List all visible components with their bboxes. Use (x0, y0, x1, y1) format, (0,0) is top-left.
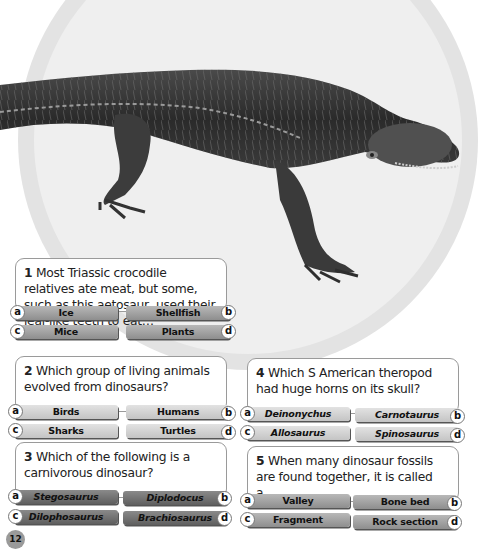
question-card-2: 2 Which group of living animals evolved … (15, 356, 227, 412)
option-letter-c: c (240, 425, 255, 440)
option-letter-b: b (450, 409, 465, 424)
option-letter-a: a (8, 404, 23, 419)
option-letter-b: b (447, 496, 462, 511)
answer-label: Dilophosaurus (29, 511, 103, 522)
answer-label: Sharks (48, 425, 83, 436)
answer-label: Turtles (160, 425, 195, 436)
answer-label: Bone bed (381, 496, 430, 507)
question-text: Which of the following is a carnivorous … (24, 450, 190, 480)
answer-option-c[interactable]: Sharks (14, 424, 118, 438)
option-letter-a: a (10, 305, 25, 320)
answer-label: Stegosaurus (34, 491, 99, 502)
question-number: 2 (24, 364, 32, 378)
answer-option-b[interactable]: Humans (126, 405, 230, 419)
answer-label: Mice (54, 326, 78, 337)
question-number: 3 (24, 450, 32, 464)
answer-option-d[interactable]: Plants (126, 325, 230, 339)
answer-option-b[interactable]: Shellfish (126, 306, 230, 320)
answer-label: Valley (282, 495, 313, 506)
question-number: 4 (256, 366, 264, 380)
answer-option-b[interactable]: Bone bed (353, 495, 457, 509)
answer-label: Shellfish (156, 307, 201, 318)
answer-label: Fragment (273, 514, 323, 525)
answer-label: Diplodocus (146, 492, 203, 503)
answer-option-b[interactable]: Carnotaurus (355, 408, 459, 422)
answer-option-a[interactable]: Valley (246, 494, 350, 508)
question-card-4: 4 Which S American theropod had huge hor… (247, 358, 459, 414)
answer-label: Allosaurus (271, 427, 325, 438)
option-letter-a: a (8, 489, 23, 504)
answer-option-d[interactable]: Turtles (126, 424, 230, 438)
answer-option-a[interactable]: Stegosaurus (14, 490, 118, 504)
option-letter-b: b (217, 491, 232, 506)
answer-option-c[interactable]: Dilophosaurus (14, 510, 118, 524)
answer-label: Birds (53, 406, 80, 417)
question-number: 1 (24, 266, 32, 280)
answer-option-c[interactable]: Fragment (246, 513, 350, 527)
option-letter-b: b (221, 305, 236, 320)
option-letter-d: d (217, 511, 232, 526)
question-text: Which group of living animals evolved fr… (24, 364, 210, 394)
option-letter-c: c (8, 423, 23, 438)
answer-option-d[interactable]: Brachiosaurus (123, 511, 227, 525)
option-letter-d: d (447, 515, 462, 530)
answer-option-d[interactable]: Spinosaurus (355, 427, 459, 441)
answer-label: Ice (58, 307, 73, 318)
option-letter-c: c (240, 512, 255, 527)
question-text: Which S American theropod had huge horns… (256, 366, 432, 396)
option-letter-c: c (10, 324, 25, 339)
answer-label: Carnotaurus (375, 409, 439, 420)
answer-label: Brachiosaurus (138, 512, 212, 523)
answer-label: Humans (157, 406, 199, 417)
answer-option-d[interactable]: Rock section (353, 515, 457, 529)
answer-label: Deinonychus (265, 408, 331, 419)
option-letter-a: a (240, 406, 255, 421)
question-card-1: 1 Most Triassic crocodile relatives ate … (15, 258, 227, 312)
option-letter-b: b (221, 406, 236, 421)
option-letter-d: d (221, 425, 236, 440)
answer-option-c[interactable]: Allosaurus (246, 426, 350, 440)
answer-label: Plants (162, 326, 194, 337)
answer-option-c[interactable]: Mice (14, 325, 118, 339)
option-letter-a: a (240, 493, 255, 508)
question-number: 5 (256, 454, 264, 468)
answer-option-b[interactable]: Diplodocus (123, 491, 227, 505)
option-letter-d: d (450, 428, 465, 443)
answer-option-a[interactable]: Deinonychus (246, 407, 350, 421)
page-number: 12 (6, 530, 25, 549)
answer-label: Spinosaurus (375, 428, 439, 439)
answer-option-a[interactable]: Ice (14, 306, 118, 320)
option-letter-c: c (8, 509, 23, 524)
aetosaur-illustration (0, 60, 468, 290)
option-letter-d: d (221, 324, 236, 339)
answer-label: Rock section (372, 516, 438, 527)
answer-option-a[interactable]: Birds (14, 405, 118, 419)
